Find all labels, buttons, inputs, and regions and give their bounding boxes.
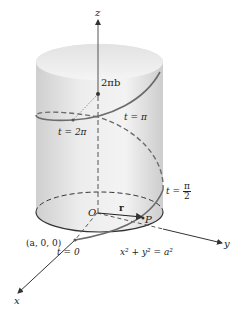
point-p-label: P xyxy=(145,215,152,225)
cylinder xyxy=(36,44,163,232)
start-point-label: (a, 0, 0) xyxy=(26,239,61,248)
t-pi-half-prefix: t = xyxy=(166,186,180,196)
height-label: 2πb xyxy=(101,78,120,88)
height-point xyxy=(96,92,100,96)
x-axis-label: x xyxy=(14,296,20,306)
helix-diagram xyxy=(0,0,232,319)
origin-label: O xyxy=(88,208,96,218)
t-pi-half-label: t = π 2 xyxy=(166,182,191,201)
start-point xyxy=(74,239,77,242)
fraction-denominator: 2 xyxy=(184,192,190,201)
y-axis-label: y xyxy=(224,239,230,249)
cylinder-equation: x² + y² = a² xyxy=(120,248,173,257)
t0-label: t = 0 xyxy=(57,248,80,257)
pi-half-fraction: π 2 xyxy=(183,182,191,201)
t2pi-point xyxy=(72,119,75,122)
t-pi-label: t = π xyxy=(124,113,147,122)
z-axis-label: z xyxy=(95,8,100,18)
vector-r-label: r xyxy=(119,204,124,213)
t-2pi-label: t = 2π xyxy=(58,128,87,137)
